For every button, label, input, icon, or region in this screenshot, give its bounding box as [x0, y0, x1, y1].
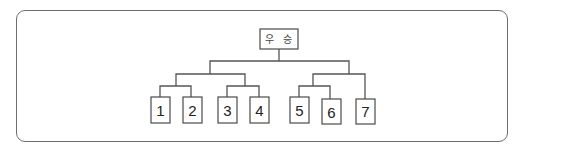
final-bracket-line [210, 61, 349, 74]
leaf-node-2: 2 [183, 97, 202, 123]
leaf-label: 1 [156, 102, 164, 119]
leaf-label: 2 [188, 102, 196, 119]
leaf-node-4: 4 [250, 97, 269, 123]
left-semifinal-bracket-line [176, 74, 245, 86]
leaf-node-1: 1 [151, 97, 170, 123]
match-1-2-bracket-line [160, 86, 191, 97]
leaf-label: 7 [361, 103, 369, 120]
leaf-label: 5 [295, 102, 303, 119]
leaf-label: 6 [327, 104, 335, 121]
leaf-node-6: 6 [322, 99, 341, 124]
leaf-label: 3 [223, 102, 231, 119]
leaf-node-3: 3 [218, 97, 237, 123]
leaf-node-7: 7 [356, 99, 375, 124]
bracket-diagram: 우 승 1 2 3 4 5 6 7 [0, 0, 565, 151]
winner-label: 우 승 [265, 34, 295, 45]
winner-node: 우 승 [260, 29, 298, 49]
bracket-lines [160, 49, 365, 99]
match-3-4-bracket-line [227, 86, 259, 97]
leaf-label: 4 [255, 102, 263, 119]
leaf-node-5: 5 [290, 97, 309, 123]
